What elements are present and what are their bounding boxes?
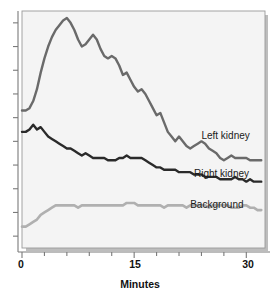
chart-canvas: 0 15 30 Minutes Left kidney Right kidney… bbox=[0, 0, 279, 294]
x-tick-label-30: 30 bbox=[242, 258, 254, 270]
y-axis-ticks bbox=[13, 23, 18, 236]
x-tick-label-0: 0 bbox=[18, 258, 24, 270]
x-axis-title: Minutes bbox=[120, 278, 160, 290]
series-label-background: Background bbox=[190, 199, 243, 210]
series-label-right-kidney: Right kidney bbox=[194, 168, 249, 179]
renogram-chart: 0 15 30 Minutes Left kidney Right kidney… bbox=[0, 0, 279, 294]
series-label-left-kidney: Left kidney bbox=[201, 130, 249, 141]
x-tick-label-15: 15 bbox=[129, 258, 141, 270]
